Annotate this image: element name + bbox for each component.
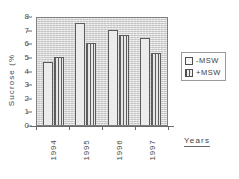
bar xyxy=(108,30,118,125)
x-axis-tick-mark xyxy=(168,126,169,130)
bar xyxy=(86,43,96,125)
x-axis-tick-label: 1994 xyxy=(48,140,57,161)
y-axis-tick-mark xyxy=(27,57,32,58)
x-axis-tick-mark xyxy=(36,126,37,130)
bar-group xyxy=(140,18,161,125)
plot-area xyxy=(36,17,168,126)
x-axis-tick-mark xyxy=(135,126,136,130)
y-axis-tick-mark xyxy=(27,98,32,99)
legend-swatch-open-square-icon xyxy=(185,57,193,65)
bar xyxy=(151,53,161,125)
y-axis-ticks: 012345678 xyxy=(18,17,31,126)
bar-group xyxy=(43,18,64,125)
y-axis-tick-mark xyxy=(27,30,32,31)
bar-chart-figure: Sucrose (% 012345678 1994199519961997 Ye… xyxy=(0,0,239,179)
x-axis-tick-label: 1997 xyxy=(147,140,156,161)
y-axis-tick-mark xyxy=(27,71,32,72)
x-axis-tick-mark xyxy=(102,126,103,130)
y-axis-tick-mark xyxy=(27,112,32,113)
bar-group xyxy=(108,18,129,125)
x-axis-tick-cell: 1997 xyxy=(135,132,168,172)
x-axis-tick-labels: 1994199519961997 xyxy=(36,132,168,172)
bar xyxy=(140,38,150,125)
y-axis-tick-mark xyxy=(27,17,32,18)
x-axis-tick-cell: 1996 xyxy=(102,132,135,172)
legend-item-label: +MSW xyxy=(196,68,221,77)
x-axis-tick-label: 1995 xyxy=(81,140,90,161)
x-axis-title: Years xyxy=(184,136,210,147)
x-axis-tick-cell: 1994 xyxy=(36,132,69,172)
bar-groups xyxy=(37,18,167,125)
bar xyxy=(75,23,85,125)
y-axis-tick-mark xyxy=(27,44,32,45)
legend-swatch-hatched-square-icon xyxy=(185,69,193,77)
legend-item: -MSW xyxy=(185,56,221,65)
x-axis-tick-mark xyxy=(69,126,70,130)
legend-item-label: -MSW xyxy=(196,56,219,65)
x-axis-tick-cell: 1995 xyxy=(69,132,102,172)
bar xyxy=(119,35,129,125)
bar xyxy=(43,62,53,125)
x-axis-tick-label: 1996 xyxy=(114,140,123,161)
legend-item: +MSW xyxy=(185,68,221,77)
bar-group xyxy=(75,18,96,125)
bar xyxy=(54,57,64,125)
chart-legend: -MSW+MSW xyxy=(181,52,226,81)
y-axis-title: Sucrose (% xyxy=(7,54,16,106)
y-axis-title-container: Sucrose (% xyxy=(4,30,18,130)
y-axis-tick-mark xyxy=(27,85,32,86)
